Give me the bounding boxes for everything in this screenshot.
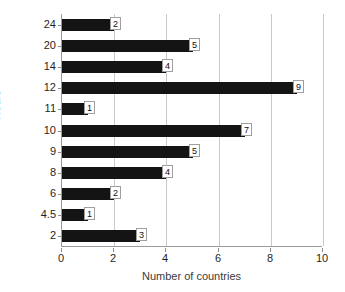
x-axis-tick-mark xyxy=(218,248,219,252)
bar-row[interactable]: 3 xyxy=(62,230,322,242)
bar-value-label: 4 xyxy=(162,59,173,72)
y-axis-tick-label: 9 xyxy=(18,146,56,157)
y-axis-tick-label: 24 xyxy=(18,19,56,30)
x-axis-tick-label: 0 xyxy=(47,252,75,265)
bar-row[interactable]: 1 xyxy=(62,103,322,115)
x-axis-tick-mark xyxy=(165,248,166,252)
y-axis-tick-label: 2 xyxy=(18,230,56,241)
bar[interactable] xyxy=(62,19,114,31)
x-axis-tick-label: 10 xyxy=(308,252,336,265)
y-axis-tick-label: 14 xyxy=(18,61,56,72)
bar-value-label: 5 xyxy=(189,144,200,157)
bar-value-label: 3 xyxy=(136,228,147,241)
y-axis-tick-label: 6 xyxy=(18,188,56,199)
x-axis-tick-mark xyxy=(61,248,62,252)
bar[interactable] xyxy=(62,82,297,94)
gridline xyxy=(323,14,324,246)
y-axis-tick-label: 11 xyxy=(18,103,56,114)
bar[interactable] xyxy=(62,188,114,200)
bar-value-label: 2 xyxy=(110,186,121,199)
bar-row[interactable]: 1 xyxy=(62,209,322,221)
bar-value-label: 2 xyxy=(110,17,121,30)
x-axis-tick-mark xyxy=(322,248,323,252)
bar-value-label: 1 xyxy=(84,207,95,220)
x-axis-tick-mark xyxy=(270,248,271,252)
x-axis-tick-label: 2 xyxy=(99,252,127,265)
bar[interactable] xyxy=(62,61,166,73)
plot-area: 25491754213 xyxy=(61,14,322,247)
bar[interactable] xyxy=(62,167,166,179)
bar-value-label: 9 xyxy=(293,80,304,93)
bar-chart: Hours 2420141211109864.52 25491754213 02… xyxy=(0,0,345,292)
bar-value-label: 1 xyxy=(84,101,95,114)
bar-row[interactable]: 4 xyxy=(62,167,322,179)
x-axis-title: Number of countries xyxy=(61,270,322,282)
bar[interactable] xyxy=(62,146,193,158)
y-axis-tick-label: 10 xyxy=(18,125,56,136)
bar[interactable] xyxy=(62,230,140,242)
bar-row[interactable]: 4 xyxy=(62,61,322,73)
x-axis-tick-mark xyxy=(113,248,114,252)
bar[interactable] xyxy=(62,40,193,52)
bar-row[interactable]: 2 xyxy=(62,19,322,31)
bar-value-label: 5 xyxy=(189,38,200,51)
bar-row[interactable]: 5 xyxy=(62,146,322,158)
x-axis-tick-label: 6 xyxy=(204,252,232,265)
y-axis-tick-label: 12 xyxy=(18,82,56,93)
bar-value-label: 7 xyxy=(241,123,252,136)
x-axis-tick-label: 8 xyxy=(256,252,284,265)
bar-value-label: 4 xyxy=(162,165,173,178)
bar-row[interactable]: 9 xyxy=(62,82,322,94)
y-axis-tick-label: 20 xyxy=(18,40,56,51)
y-axis-tick-label: 8 xyxy=(18,167,56,178)
bar-row[interactable]: 7 xyxy=(62,125,322,137)
y-axis-tick-label: 4.5 xyxy=(18,209,56,220)
bar-row[interactable]: 2 xyxy=(62,188,322,200)
x-axis-tick-label: 4 xyxy=(151,252,179,265)
y-axis-title: Hours xyxy=(0,75,2,135)
bar-row[interactable]: 5 xyxy=(62,40,322,52)
x-axis-tick-labels: 0246810 xyxy=(61,252,322,268)
bar[interactable] xyxy=(62,125,245,137)
y-axis-tick-labels: 2420141211109864.52 xyxy=(18,14,56,247)
